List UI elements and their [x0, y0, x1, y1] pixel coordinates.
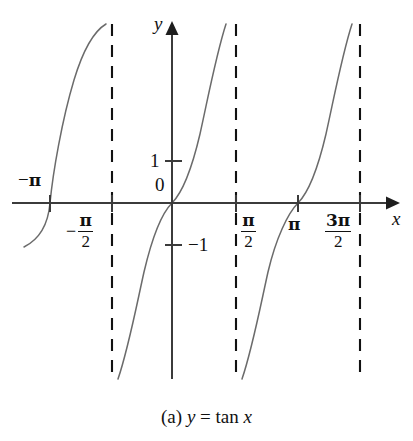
figure-caption: (a) y = tan x — [0, 406, 413, 428]
x-tick-label-neg-pi: −π — [18, 170, 41, 189]
y-axis-label: y — [154, 14, 162, 33]
x-axis-label: x — [392, 209, 400, 228]
y-tick-label-one: 1 — [150, 151, 160, 170]
caption-equals: = — [200, 406, 211, 427]
tangent-curves — [24, 24, 352, 379]
three-half-pi-numerator: 3π — [325, 212, 351, 231]
x-tick-label-three-half-pi: 3π 2 — [325, 212, 351, 251]
three-half-pi-numerator-row: 3π — [325, 212, 351, 231]
three-half-pi-denominator: 2 — [333, 232, 344, 251]
caption-variable: x — [244, 406, 252, 427]
neg-half-pi-sign: − — [66, 222, 76, 240]
half-pi-denominator: 2 — [243, 232, 254, 251]
y-axis-arrowhead — [166, 21, 179, 35]
caption-lhs: y — [187, 406, 195, 427]
neg-pi-symbol: π — [29, 170, 41, 190]
x-tick-label-neg-half-pi: − π 2 — [66, 212, 93, 251]
neg-pi-sign: − — [18, 169, 29, 190]
caption-function-name: tan — [216, 406, 239, 427]
x-tick-label-pi: π — [288, 216, 300, 233]
half-pi-numerator: π — [241, 212, 255, 231]
x-tick-label-half-pi: π 2 — [241, 212, 256, 251]
neg-half-pi-denominator: 2 — [80, 232, 91, 251]
tangent-function-figure: y x 0 1 −1 −π − π 2 π 2 π 3π — [0, 0, 413, 441]
neg-half-pi-numerator: π — [78, 212, 92, 231]
y-tick-label-neg-one: −1 — [188, 235, 208, 254]
caption-part-label: (a) — [161, 406, 182, 427]
pi-symbol: π — [288, 214, 300, 234]
tangent-branch-left — [24, 24, 106, 247]
half-pi-numerator-row: π — [241, 212, 255, 231]
y-tick-label-zero: 0 — [155, 175, 165, 194]
neg-half-pi-numerator-row: π — [78, 212, 92, 231]
neg-half-pi-fraction: π 2 — [78, 212, 93, 251]
